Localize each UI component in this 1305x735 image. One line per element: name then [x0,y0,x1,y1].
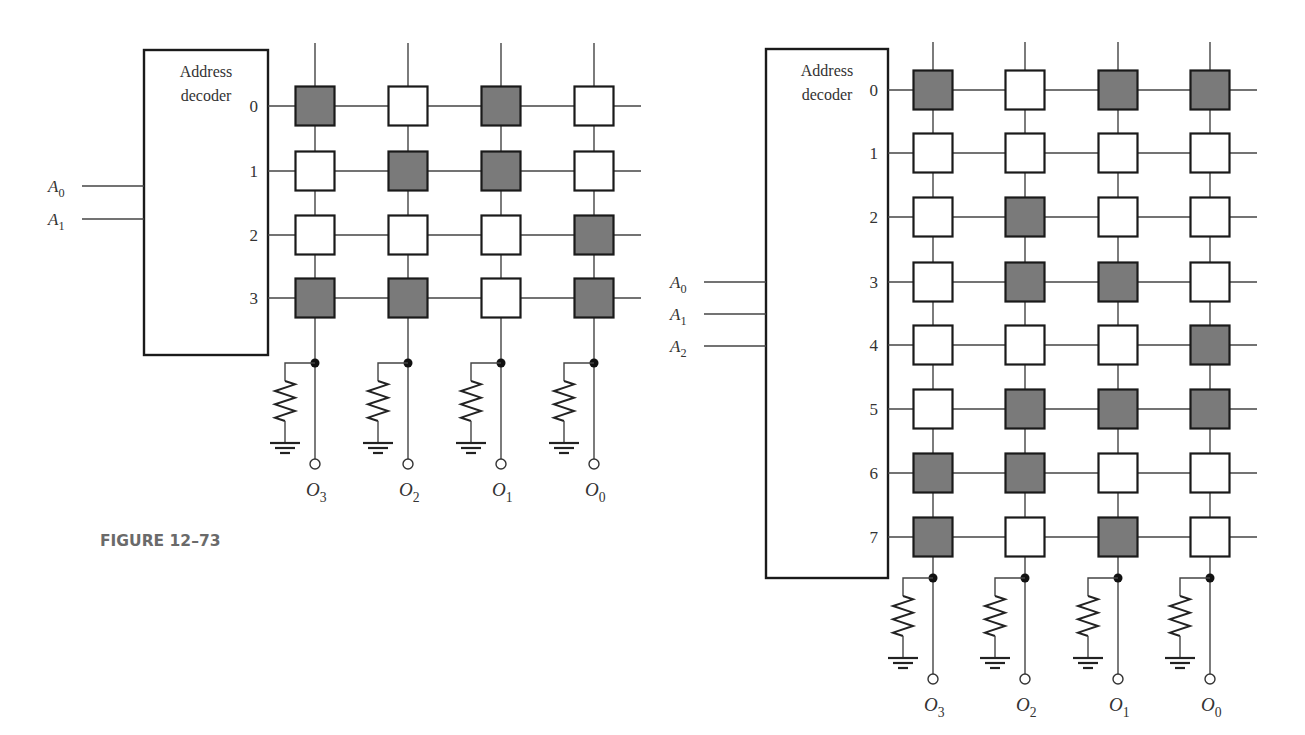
memory-cell-programmed [389,279,428,318]
memory-cell-programmed [296,279,335,318]
memory-cell-empty [1191,454,1230,493]
output-stage: O1 [456,359,513,505]
memory-cell-programmed [482,152,521,191]
row-label: 1 [250,162,259,181]
memory-cell-programmed [575,279,614,318]
address-input-label-a1: A1 [669,305,687,328]
output-stage: O3 [270,359,327,505]
output-stage: O0 [549,359,606,505]
pull-down-resistor-icon [461,381,481,421]
address-decoder-box [766,49,888,578]
output-terminal-icon [1205,674,1215,684]
memory-cell-empty [1099,134,1138,173]
memory-cell-empty [1099,454,1138,493]
output-terminal-icon [928,674,938,684]
memory-cell-programmed [389,152,428,191]
memory-cell-empty [1191,198,1230,237]
memory-cell-empty [1099,326,1138,365]
decoder-label-line2: decoder [181,87,232,104]
pull-down-resistor-icon [985,596,1005,636]
memory-cell-programmed [1191,326,1230,365]
memory-cell-empty [389,87,428,126]
memory-cell-empty [1006,326,1045,365]
memory-cell-programmed [1099,71,1138,110]
address-input-label-a0: A0 [669,273,687,296]
pull-down-resistor-icon [554,381,574,421]
row-label: 4 [870,336,879,355]
rom-4x4-diagram: AddressdecoderA0A10123O3O2O1O0 [47,43,641,505]
output-terminal-icon [1020,674,1030,684]
row-label: 6 [870,464,879,483]
output-stage: O2 [363,359,420,505]
decoder-label-line1: Address [801,62,853,79]
output-stage: O3 [888,574,945,720]
output-terminal-icon [589,459,599,469]
memory-cell-programmed [296,87,335,126]
rom-diagrams-canvas: FIGURE 12–73 AddressdecoderA0A10123O3O2O… [0,0,1305,735]
memory-cell-empty [914,134,953,173]
address-input-label-a1: A1 [47,210,65,233]
row-label: 1 [870,144,879,163]
pull-down-resistor-icon [368,381,388,421]
resistor-lead [1180,578,1210,596]
resistor-lead [378,363,408,381]
memory-cell-programmed [1006,454,1045,493]
output-terminal-icon [403,459,413,469]
pull-down-resistor-icon [1170,596,1190,636]
pull-down-resistor-icon [275,381,295,421]
row-label: 0 [870,81,879,100]
memory-cell-empty [1191,263,1230,302]
memory-cell-programmed [914,454,953,493]
pull-down-resistor-icon [893,596,913,636]
output-label-o3: O3 [924,694,945,720]
pull-down-resistor-icon [1078,596,1098,636]
resistor-lead [564,363,594,381]
memory-cell-empty [482,216,521,255]
memory-cell-empty [296,152,335,191]
memory-cell-empty [1191,134,1230,173]
memory-cell-empty [1191,518,1230,557]
output-label-o1: O1 [492,479,513,505]
memory-cell-empty [389,216,428,255]
output-stage: O2 [980,574,1037,720]
row-label: 5 [870,400,879,419]
memory-cell-empty [1006,518,1045,557]
resistor-lead [903,578,933,596]
resistor-lead [995,578,1025,596]
figure-caption: FIGURE 12–73 [100,532,220,550]
memory-cell-programmed [482,87,521,126]
decoder-label-line1: Address [180,63,232,80]
output-label-o2: O2 [399,479,420,505]
output-label-o1: O1 [1109,694,1130,720]
memory-cell-programmed [575,216,614,255]
memory-cell-empty [482,279,521,318]
decoder-label-line2: decoder [802,86,853,103]
output-terminal-icon [1113,674,1123,684]
output-terminal-icon [310,459,320,469]
memory-cell-programmed [1191,71,1230,110]
row-label: 3 [870,273,879,292]
output-label-o0: O0 [1201,694,1222,720]
memory-cell-programmed [1006,198,1045,237]
memory-cell-empty [1099,198,1138,237]
row-label: 7 [870,528,879,547]
resistor-lead [1088,578,1118,596]
memory-cell-empty [914,198,953,237]
memory-cell-programmed [1099,263,1138,302]
memory-cell-empty [1006,71,1045,110]
resistor-lead [285,363,315,381]
memory-cell-empty [914,390,953,429]
memory-cell-programmed [914,518,953,557]
memory-cell-programmed [1006,263,1045,302]
resistor-lead [471,363,501,381]
memory-cell-programmed [1191,390,1230,429]
address-input-label-a0: A0 [47,177,65,200]
output-stage: O1 [1073,574,1130,720]
output-terminal-icon [496,459,506,469]
memory-cell-programmed [914,71,953,110]
memory-cell-empty [914,263,953,302]
memory-cell-empty [575,87,614,126]
output-stage: O0 [1165,574,1222,720]
row-label: 2 [870,208,879,227]
rom-8x4-diagram: AddressdecoderA0A1A201234567O3O2O1O0 [669,42,1257,720]
